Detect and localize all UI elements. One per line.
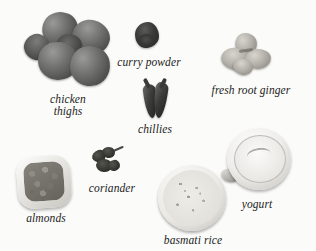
- label-almonds: almonds: [8, 212, 84, 224]
- powder-mound: [135, 22, 159, 48]
- label-yogurt: yogurt: [222, 198, 292, 210]
- rice-grains: [163, 170, 221, 226]
- label-chillies: chillies: [117, 123, 193, 135]
- yogurt-jug-icon: [221, 128, 291, 194]
- label-coriander: coriander: [72, 182, 152, 194]
- almond-nuts: [23, 161, 66, 203]
- label-fresh-root-ginger: fresh root ginger: [193, 84, 309, 96]
- rice-bowl-icon: [158, 165, 226, 231]
- curry-powder-icon: [135, 22, 159, 48]
- almonds-bowl-icon: [17, 156, 71, 208]
- chicken-thighs-icon: [22, 10, 112, 92]
- ginger-root-icon: [215, 33, 273, 77]
- chilli-pepper-icon: [138, 78, 172, 120]
- label-basmati-rice: basmati rice: [143, 234, 243, 246]
- coriander-leaves-icon: [90, 146, 124, 178]
- label-curry-powder: curry powder: [106, 56, 192, 68]
- label-chicken-thighs: chicken thighs: [28, 93, 108, 117]
- ingredients-scene: chicken thighs curry powder fresh root g…: [0, 0, 316, 251]
